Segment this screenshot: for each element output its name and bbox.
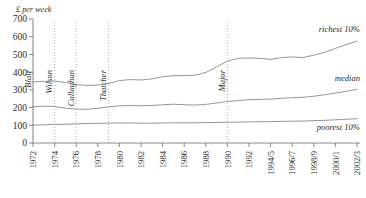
y-tick-label: 100 — [13, 121, 28, 131]
x-tick-label: 1994/5 — [266, 151, 276, 175]
pm-label: Callaghan — [66, 70, 76, 106]
y-axis-title: £ per week — [16, 5, 52, 14]
series-labels: richest 10%medianpoorest 10% — [316, 24, 360, 132]
x-tick-label: 1980 — [115, 151, 125, 168]
x-tick-label: 2002/3 — [352, 151, 362, 175]
pm-label: Blair — [23, 69, 33, 87]
x-tick-label: 1988 — [201, 151, 211, 168]
series-label: poorest 10% — [316, 122, 360, 132]
series-line-poorest-10- — [33, 119, 357, 126]
x-tick-label: 1984 — [158, 150, 168, 168]
series-label: richest 10% — [319, 24, 360, 34]
x-tick-label: 1974 — [50, 150, 60, 168]
x-tick-label: 1986 — [179, 150, 189, 168]
x-tick-label: 1998/9 — [309, 151, 319, 175]
x-tick-label: 2000/1 — [331, 151, 341, 175]
y-tick-label: 200 — [13, 103, 28, 113]
y-tick-label: 500 — [13, 50, 28, 60]
y-axis-title-label: £ per week — [16, 5, 52, 14]
x-tick-label: 1992 — [244, 151, 254, 168]
x-tick-label: 1976 — [71, 150, 81, 168]
x-axis-ticks — [33, 143, 357, 147]
series-label: median — [335, 73, 360, 83]
pm-label: Major — [217, 69, 227, 92]
income-distribution-chart: £ per week 0100200300400500600700 197219… — [0, 0, 366, 198]
series-line-median — [33, 89, 357, 109]
x-tick-label: 1990 — [223, 151, 233, 168]
series-line-richest-10- — [33, 41, 357, 85]
pm-gridlines — [33, 22, 227, 143]
x-tick-label: 1996/7 — [287, 150, 297, 175]
x-tick-label: 1982 — [136, 151, 146, 168]
x-axis-tick-labels: 1972197419761978198019821984198619881990… — [28, 150, 362, 175]
y-tick-label: 0 — [22, 138, 27, 148]
x-tick-label: 1972 — [28, 151, 38, 168]
y-tick-label: 700 — [13, 14, 28, 24]
data-series — [33, 41, 357, 125]
x-tick-label: 1978 — [93, 151, 103, 168]
y-tick-label: 600 — [13, 32, 28, 42]
chart-canvas: £ per week 0100200300400500600700 197219… — [0, 0, 366, 198]
